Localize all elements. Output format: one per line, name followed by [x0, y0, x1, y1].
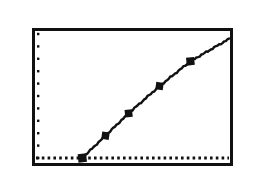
y-axis-tick: [37, 120, 39, 122]
plot-area: [0, 0, 268, 194]
data-point-marker: [125, 109, 133, 117]
y-axis-tick: [37, 82, 39, 84]
y-axis-tick: [37, 45, 39, 47]
data-point-marker: [101, 131, 109, 139]
data-point-marker: [155, 82, 163, 90]
y-axis-tick: [37, 132, 39, 134]
y-axis-tick: [37, 107, 39, 109]
data-point-marker: [186, 57, 195, 66]
y-axis-tick: [37, 70, 39, 72]
data-point-marker: [78, 153, 87, 162]
y-axis-tick: [37, 33, 39, 35]
y-axis-tick: [37, 58, 39, 60]
y-axis-tick: [37, 144, 39, 146]
chart-figure: 300,000 200,000 60 110: [0, 0, 268, 194]
y-axis-tick: [37, 95, 39, 97]
